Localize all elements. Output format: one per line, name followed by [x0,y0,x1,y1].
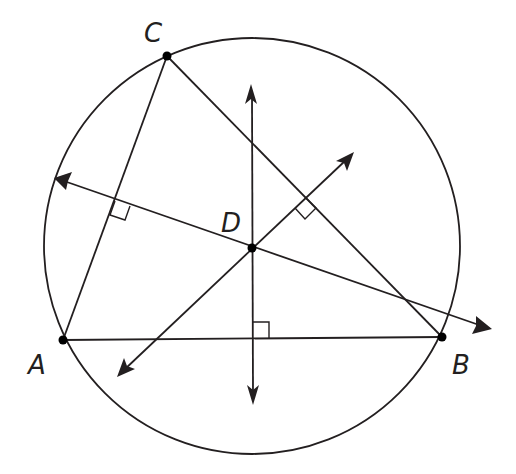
point-a [59,336,68,345]
label-a: A [26,350,46,380]
point-d [248,244,257,253]
arrowhead-upright-icon [336,152,354,171]
right-angle-mark-bc [295,197,316,219]
arrowhead-up-icon [245,84,257,104]
right-angle-mark-ab [253,322,269,338]
bisector-bc [117,152,354,377]
segment-bc [167,56,442,337]
point-b [438,333,447,342]
geometry-diagram: A B C D [0,0,516,474]
arrowhead-right-icon [472,316,492,334]
point-c [163,52,172,61]
arrowhead-downleft-icon [117,358,135,377]
label-b: B [452,350,470,380]
label-c: C [144,18,163,48]
label-d: D [221,208,241,238]
bisector-ac [54,172,492,334]
